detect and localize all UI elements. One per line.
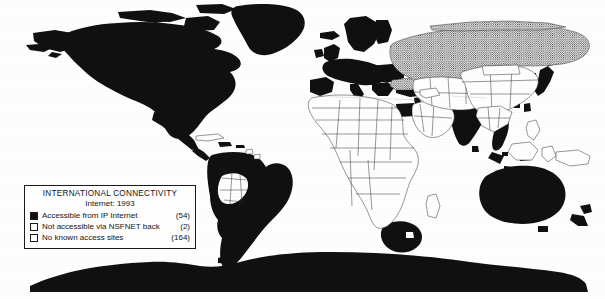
legend-count-no-access: (164) (167, 232, 190, 243)
legend-label-no-access: No known access sites (42, 232, 167, 243)
legend-count-not-accessible: (2) (176, 221, 190, 232)
region-lesotho-white (406, 232, 414, 238)
map-svg (0, 0, 605, 299)
region-singapore (502, 152, 508, 156)
legend-entry-not-accessible: Not accessible via NSFNET back (2) (30, 221, 190, 232)
legend-entry-no-access: No known access sites (164) (30, 232, 190, 243)
region-taiwan (524, 103, 531, 112)
legend-count-accessible: (54) (172, 210, 190, 221)
legend-title: INTERNATIONAL CONNECTIVITY (30, 189, 190, 199)
legend-swatch-white (30, 234, 38, 242)
legend-label-not-accessible: Not accessible via NSFNET back (42, 221, 176, 232)
region-caribbean-pr (236, 145, 245, 148)
world-connectivity-map (0, 0, 605, 299)
legend-entry-accessible: Accessible from IP Internet (54) (30, 210, 190, 221)
map-legend: INTERNATIONAL CONNECTIVITY Internet: 199… (24, 185, 196, 249)
legend-swatch-solid-black (30, 212, 38, 220)
map-figure-page: INTERNATIONAL CONNECTIVITY Internet: 199… (0, 0, 605, 299)
region-sri-lanka (472, 146, 479, 152)
legend-swatch-stippled (30, 223, 38, 231)
legend-subtitle: Internet: 1993 (30, 199, 190, 209)
region-mongolia (482, 65, 520, 75)
region-australia (479, 166, 565, 224)
region-tasmania (538, 226, 548, 232)
legend-label-accessible: Accessible from IP Internet (42, 210, 172, 221)
